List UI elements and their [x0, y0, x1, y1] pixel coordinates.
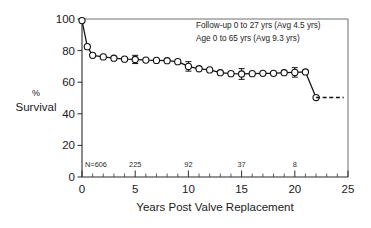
data-point-marker [270, 70, 276, 76]
y-tick-label: 40 [62, 108, 75, 120]
data-point-marker [260, 70, 266, 76]
data-point-marker [175, 59, 181, 65]
survival-chart-figure: 0204060801000510152025Years Post Valve R… [0, 0, 371, 228]
data-point-marker [228, 71, 234, 77]
y-tick-label: 80 [62, 45, 75, 57]
numbers-at-risk-label: N=606 [85, 160, 107, 169]
y-tick-label: 60 [62, 76, 75, 88]
data-point-marker [196, 66, 202, 72]
x-tick-label: 5 [132, 183, 138, 195]
numbers-at-risk-label: 37 [237, 160, 245, 169]
x-tick-label: 10 [182, 183, 195, 195]
annotation-line: Age 0 to 65 yrs (Avg 9.3 yrs) [196, 34, 300, 43]
data-point-marker [143, 57, 149, 63]
data-point-marker [132, 56, 138, 62]
y-axis-title-survival: Survival [16, 101, 57, 113]
data-point-marker [281, 70, 287, 76]
x-axis-title: Years Post Valve Replacement [136, 201, 294, 213]
data-point-marker [100, 54, 106, 60]
data-point-marker [111, 55, 117, 61]
data-point-marker [217, 70, 223, 76]
data-point-marker [84, 44, 90, 50]
x-tick-label: 15 [235, 183, 248, 195]
y-tick-label: 0 [69, 171, 75, 183]
y-tick-label: 100 [56, 13, 75, 25]
data-point-marker [121, 56, 127, 62]
x-tick-label: 25 [342, 183, 355, 195]
data-point-marker [249, 71, 255, 77]
data-point-marker [79, 17, 85, 23]
data-point-marker [302, 69, 308, 75]
data-point-marker [153, 57, 159, 63]
x-tick-label: 0 [79, 183, 85, 195]
data-point-marker [207, 67, 213, 73]
y-axis-title-percent: % [32, 88, 40, 98]
data-point-marker [239, 71, 245, 77]
numbers-at-risk-label: 92 [184, 160, 192, 169]
data-point-marker [185, 63, 191, 69]
data-point-marker [90, 52, 96, 58]
numbers-at-risk-label: 8 [293, 160, 297, 169]
data-point-marker [164, 58, 170, 64]
x-tick-label: 20 [288, 183, 301, 195]
numbers-at-risk-label: 225 [129, 160, 141, 169]
annotation-line: Follow-up 0 to 27 yrs (Avg 4.5 yrs) [196, 21, 321, 30]
data-point-marker [292, 69, 298, 75]
y-tick-label: 20 [62, 139, 75, 151]
survival-plot: 0204060801000510152025Years Post Valve R… [0, 0, 371, 228]
